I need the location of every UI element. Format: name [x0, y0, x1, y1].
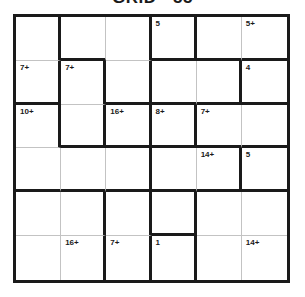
cell-r5c3[interactable]: [106, 192, 151, 236]
cell-r4c4[interactable]: [152, 148, 197, 192]
cell-r6c6[interactable]: 14+: [242, 236, 287, 280]
kenken-grid: 55+7+7+410+16+8+7+14+516+7+114+: [13, 14, 290, 283]
cell-r5c2[interactable]: [61, 192, 106, 236]
cage-label: 16+: [110, 107, 124, 116]
cage-label: 4: [246, 63, 250, 72]
cell-r2c5[interactable]: [197, 61, 242, 105]
cell-r5c4[interactable]: [152, 192, 197, 236]
cell-r3c2[interactable]: [61, 105, 106, 149]
cell-r4c1[interactable]: [16, 148, 61, 192]
cage-label: 7+: [20, 63, 29, 72]
cage-label: 7+: [201, 107, 210, 116]
puzzle-page: GRID - 55 55+7+7+410+16+8+7+14+516+7+114…: [0, 0, 305, 297]
cell-r5c6[interactable]: [242, 192, 287, 236]
cell-r5c5[interactable]: [197, 192, 242, 236]
cell-r3c4[interactable]: 8+: [152, 105, 197, 149]
cell-r6c3[interactable]: 7+: [106, 236, 151, 280]
cage-label: 7+: [65, 63, 74, 72]
cage-label: 8+: [156, 107, 165, 116]
cell-r6c2[interactable]: 16+: [61, 236, 106, 280]
cage-label: 7+: [110, 238, 119, 247]
cell-r2c6[interactable]: 4: [242, 61, 287, 105]
cell-r6c5[interactable]: [197, 236, 242, 280]
cell-r4c2[interactable]: [61, 148, 106, 192]
cell-r4c5[interactable]: 14+: [197, 148, 242, 192]
cage-label: 10+: [20, 107, 34, 116]
cage-label: 14+: [201, 150, 215, 159]
cell-r1c1[interactable]: [16, 17, 61, 61]
cell-r2c1[interactable]: 7+: [16, 61, 61, 105]
cage-label: 5: [156, 19, 160, 28]
cage-label: 16+: [65, 238, 79, 247]
cell-r3c3[interactable]: 16+: [106, 105, 151, 149]
cell-r3c5[interactable]: 7+: [197, 105, 242, 149]
cage-label: 14+: [246, 238, 260, 247]
page-title: GRID - 55: [0, 0, 305, 8]
cage-label: 5: [246, 150, 250, 159]
cell-r3c6[interactable]: [242, 105, 287, 149]
cell-r5c1[interactable]: [16, 192, 61, 236]
cell-r1c6[interactable]: 5+: [242, 17, 287, 61]
cage-label: 5+: [246, 19, 255, 28]
cage-label: 1: [156, 238, 160, 247]
cell-r1c5[interactable]: [197, 17, 242, 61]
cell-r1c2[interactable]: [61, 17, 106, 61]
cell-r2c3[interactable]: [106, 61, 151, 105]
cell-r2c4[interactable]: [152, 61, 197, 105]
cell-r6c1[interactable]: [16, 236, 61, 280]
cell-r1c3[interactable]: [106, 17, 151, 61]
cell-r4c6[interactable]: 5: [242, 148, 287, 192]
title-container: GRID - 55: [0, 0, 305, 11]
cell-r3c1[interactable]: 10+: [16, 105, 61, 149]
cell-r2c2[interactable]: 7+: [61, 61, 106, 105]
cell-r6c4[interactable]: 1: [152, 236, 197, 280]
cell-r1c4[interactable]: 5: [152, 17, 197, 61]
cell-r4c3[interactable]: [106, 148, 151, 192]
